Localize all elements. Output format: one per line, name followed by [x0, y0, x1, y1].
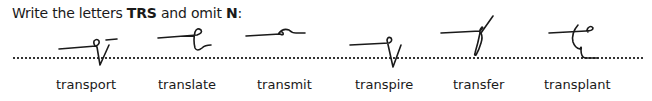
shorthand-outline-transport-icon — [59, 39, 117, 65]
word-label-transmit: transmit — [257, 77, 312, 92]
word-label-transpire: transpire — [355, 77, 413, 92]
shorthand-outline-transmit-icon — [246, 29, 305, 36]
word-label-transplant: transplant — [544, 77, 611, 92]
word-label-transport: transport — [56, 77, 116, 92]
word-label-translate: translate — [158, 77, 216, 92]
shorthand-outline-transpire-icon — [350, 37, 401, 67]
shorthand-outline-translate-icon — [158, 29, 211, 50]
shorthand-outline-transfer-icon — [441, 16, 493, 55]
word-label-transfer: transfer — [453, 77, 504, 92]
shorthand-outline-transplant-icon — [549, 25, 597, 58]
